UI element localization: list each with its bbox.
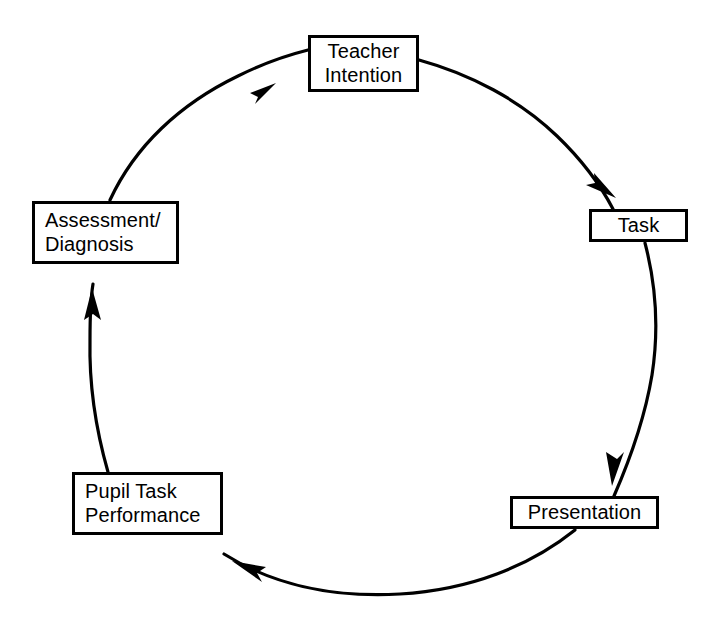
node-teacher-intention-label: Teacher Intention: [325, 40, 403, 86]
node-presentation-label: Presentation: [528, 501, 642, 524]
node-teacher-intention[interactable]: Teacher Intention: [308, 35, 419, 92]
node-task[interactable]: Task: [589, 209, 688, 242]
node-pupil-task-performance-label: Pupil Task Performance: [75, 480, 220, 526]
arrowhead-to-task: [586, 173, 616, 198]
edge-assessment-to-teacher-intention: [110, 50, 308, 200]
node-pupil-task-performance[interactable]: Pupil Task Performance: [72, 472, 223, 535]
arrowhead-to-teacher-intention: [250, 83, 276, 104]
edge-teacher-intention-to-task: [419, 60, 613, 209]
edge-presentation-to-pupil-task: [224, 530, 575, 595]
node-task-label: Task: [618, 214, 660, 237]
arrowhead-to-assessment: [84, 288, 101, 320]
node-presentation[interactable]: Presentation: [510, 496, 659, 529]
cycle-diagram: Teacher Intention Task Presentation Pupi…: [0, 0, 720, 627]
node-assessment-diagnosis-label: Assessment/ Diagnosis: [35, 209, 176, 255]
node-assessment-diagnosis[interactable]: Assessment/ Diagnosis: [32, 201, 179, 264]
